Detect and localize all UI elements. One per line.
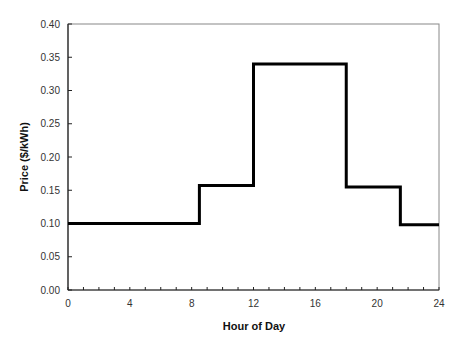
y-tick-label: 0.30 [41,85,61,96]
step-chart: 0.000.050.100.150.200.250.300.350.40 048… [0,0,464,351]
y-axis: 0.000.050.100.150.200.250.300.350.40 [41,19,72,296]
x-tick-label: 0 [65,298,71,309]
y-tick-label: 0.20 [41,152,61,163]
y-tick-label: 0.35 [41,52,61,63]
x-tick-label: 20 [372,298,384,309]
y-tick-label: 0.00 [41,285,61,296]
x-tick-label: 4 [127,298,133,309]
x-tick-label: 16 [310,298,322,309]
x-axis-title: Hour of Day [223,320,286,332]
y-tick-label: 0.15 [41,185,61,196]
y-axis-title: Price ($/kWh) [18,122,30,192]
price-step-line [68,64,439,225]
y-tick-label: 0.25 [41,118,61,129]
y-tick-label: 0.40 [41,19,61,30]
y-tick-label: 0.05 [41,251,61,262]
x-tick-label: 24 [433,298,445,309]
x-tick-label: 12 [248,298,260,309]
y-tick-label: 0.10 [41,218,61,229]
x-tick-label: 8 [189,298,195,309]
